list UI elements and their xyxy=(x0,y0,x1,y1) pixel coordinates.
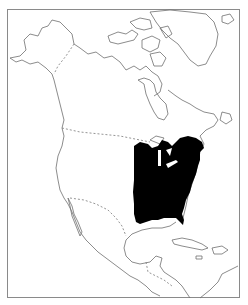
gulf-coastline xyxy=(124,222,190,298)
alaska-canada-border xyxy=(54,44,74,74)
greenland-coastline xyxy=(150,10,218,66)
canada-north-coast xyxy=(126,66,162,96)
iceland xyxy=(222,14,234,24)
canada-us-border xyxy=(62,128,150,142)
baja-california xyxy=(68,198,82,236)
us-mexico-border xyxy=(70,198,126,236)
hudson-bay xyxy=(138,78,168,120)
central-america-borders xyxy=(146,262,172,286)
hispaniola xyxy=(212,246,228,254)
south-america-coast xyxy=(200,266,238,298)
lake-michigan xyxy=(158,150,161,166)
arctic-islands xyxy=(108,18,172,66)
cuba xyxy=(172,238,208,250)
newfoundland xyxy=(220,112,232,124)
north-america-map xyxy=(0,0,248,305)
alaska-south-coast xyxy=(10,58,64,128)
jamaica xyxy=(196,256,202,259)
